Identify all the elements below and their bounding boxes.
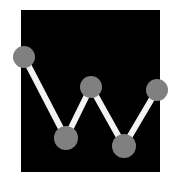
data-point-marker-4 [112,134,136,158]
logo-canvas: Zigzag line chart icon on black panel [0,0,178,188]
data-point-marker-3 [80,76,102,98]
data-point-marker-1 [13,46,35,68]
zigzag-line-chart-graphic [0,0,178,188]
data-point-marker-2 [54,126,78,150]
data-point-marker-5 [146,79,168,101]
